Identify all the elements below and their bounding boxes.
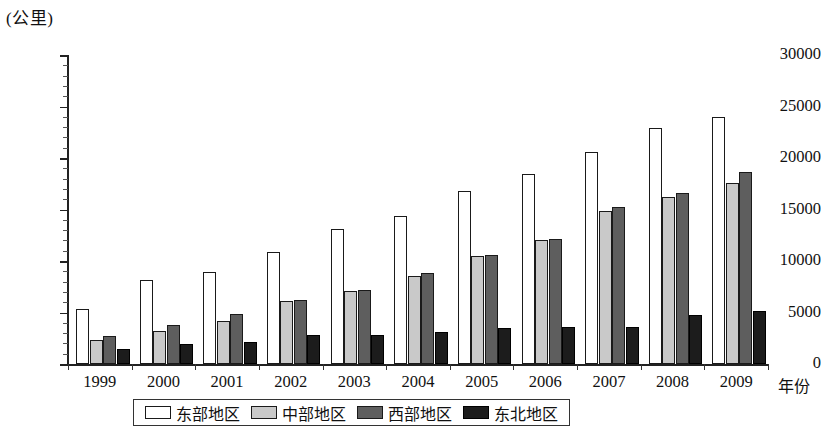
bar (358, 290, 371, 364)
legend-item: 中部地区 (251, 401, 346, 425)
x-axis-tick (323, 364, 324, 370)
bar (471, 256, 484, 364)
x-axis-tick (195, 364, 196, 370)
bar (535, 240, 548, 364)
x-axis-tick-label: 1999 (70, 372, 130, 392)
x-axis-tick (704, 364, 705, 370)
bar-group (712, 55, 766, 364)
x-axis-tick (641, 364, 642, 370)
x-axis-tick (577, 364, 578, 370)
light-gray-swatch-icon (251, 406, 277, 419)
legend-item: 东北地区 (463, 401, 558, 425)
bar (498, 328, 511, 364)
x-axis-tick-label: 2001 (197, 372, 257, 392)
y-axis-tick (60, 364, 68, 366)
bar-group (458, 55, 512, 364)
bar (458, 191, 471, 364)
y-axis-tick (60, 313, 68, 315)
y-axis-tick (60, 107, 68, 109)
bar (180, 344, 193, 364)
legend-item-label: 东北地区 (494, 401, 558, 425)
legend-item: 西部地区 (357, 401, 452, 425)
bar (421, 273, 434, 364)
x-axis-tick-label: 2002 (261, 372, 321, 392)
bar (689, 315, 702, 364)
black-swatch-icon (463, 406, 489, 419)
bar (76, 309, 89, 364)
x-axis-title: 年份 (778, 373, 810, 397)
bar-group (394, 55, 448, 364)
y-axis-tick-label: 5000 (765, 304, 821, 321)
bar (549, 239, 562, 364)
bar (676, 193, 689, 364)
legend-item-label: 西部地区 (388, 401, 452, 425)
bar (230, 314, 243, 364)
bar (153, 331, 166, 364)
y-axis-tick-label: 20000 (765, 149, 821, 166)
bar (267, 252, 280, 364)
bar (117, 349, 130, 364)
x-axis-tick (386, 364, 387, 370)
bar (585, 152, 598, 364)
x-axis-tick (768, 364, 769, 370)
bar (140, 280, 153, 364)
bar (244, 342, 257, 364)
x-axis-tick-label: 2000 (133, 372, 193, 392)
y-axis-tick-label: 10000 (765, 252, 821, 269)
x-axis-tick (132, 364, 133, 370)
bar-chart: (公里) 050001000015000200002500030000 1999… (0, 0, 821, 428)
bar-group (203, 55, 257, 364)
bar (371, 335, 384, 364)
bar (90, 340, 103, 364)
bar (294, 300, 307, 364)
x-axis-tick (68, 364, 69, 370)
x-axis-tick (513, 364, 514, 370)
bar (739, 172, 752, 364)
bar (662, 197, 675, 364)
x-axis-tick-label: 2007 (579, 372, 639, 392)
bar-group (331, 55, 385, 364)
bar (331, 229, 344, 364)
y-axis-unit-label: (公里) (6, 4, 53, 29)
x-axis-tick (450, 364, 451, 370)
bar (612, 207, 625, 364)
bar (435, 332, 448, 364)
y-axis-tick-label: 25000 (765, 98, 821, 115)
bar (753, 311, 766, 364)
y-axis-tick-label: 30000 (765, 46, 821, 63)
chart-legend: 东部地区 中部地区 西部地区 东北地区 (133, 399, 570, 426)
x-axis-tick-label: 2004 (388, 372, 448, 392)
bar-group (649, 55, 703, 364)
bar (280, 301, 293, 364)
x-axis-tick-label: 2006 (515, 372, 575, 392)
y-axis-tick (60, 261, 68, 263)
dark-gray-swatch-icon (357, 406, 383, 419)
bar (485, 255, 498, 364)
y-axis-tick (60, 55, 68, 57)
x-axis-tick-label: 2009 (706, 372, 766, 392)
bar (712, 117, 725, 364)
legend-item: 东部地区 (145, 401, 240, 425)
plot-area (68, 55, 768, 364)
bar (562, 327, 575, 364)
y-axis-tick-label: 15000 (765, 201, 821, 218)
bar-group (76, 55, 130, 364)
bar (203, 272, 216, 364)
x-axis-tick-label: 2005 (452, 372, 512, 392)
legend-item-label: 中部地区 (282, 401, 346, 425)
x-axis-line (67, 364, 769, 366)
bar (408, 276, 421, 364)
y-axis-tick (60, 158, 68, 160)
bar (626, 327, 639, 364)
bar (726, 183, 739, 364)
bar-group (267, 55, 321, 364)
bar (394, 216, 407, 364)
bar (344, 291, 357, 364)
bar (599, 211, 612, 364)
y-axis-tick (60, 210, 68, 212)
white-swatch-icon (145, 406, 171, 419)
x-axis-tick-label: 2008 (643, 372, 703, 392)
bar (522, 174, 535, 364)
bar (307, 335, 320, 364)
x-axis-tick-label: 2003 (324, 372, 384, 392)
